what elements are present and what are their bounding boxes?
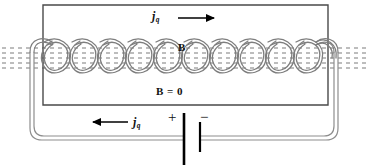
battery-negative-label: − bbox=[200, 110, 208, 125]
zero-field-label: B = 0 bbox=[156, 86, 183, 97]
inner-rect-path bbox=[43, 5, 328, 105]
battery bbox=[184, 113, 200, 165]
physics-figure: jq jq B B = 0 + − bbox=[0, 0, 368, 165]
current-symbol-bottom: j bbox=[133, 115, 136, 129]
inner-circuit-rectangle bbox=[43, 5, 328, 105]
current-symbol-top: j bbox=[152, 9, 155, 23]
coil-left-cap bbox=[30, 39, 52, 52]
current-subscript-top: q bbox=[156, 15, 160, 24]
outer-loop-right-branch bbox=[200, 52, 338, 140]
current-subscript-bottom: q bbox=[137, 121, 141, 130]
figure-canvas bbox=[0, 0, 368, 165]
magnetic-field-label: B bbox=[178, 42, 185, 53]
battery-positive-label: + bbox=[168, 110, 176, 125]
current-label-bottom: jq bbox=[133, 116, 140, 129]
current-label-top: jq bbox=[152, 10, 159, 23]
